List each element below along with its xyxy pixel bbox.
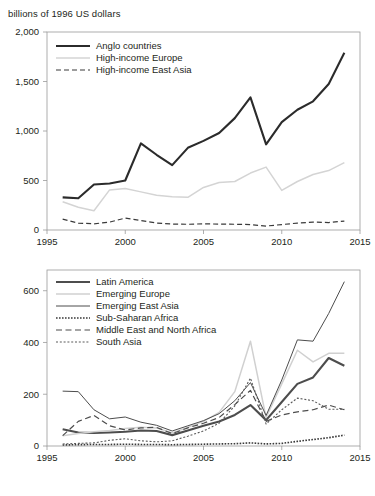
legend-label: Emerging Europe [96,288,170,299]
y-tick-label: 0 [34,440,39,451]
series-line [63,378,345,444]
legend-label: Emerging East Asia [96,300,180,311]
legend-label: High-income Europe [96,52,183,63]
y-tick-label: 500 [23,175,39,186]
x-tick-label: 1995 [36,236,57,247]
plot-frame [47,32,360,230]
y-tick-label: 200 [23,389,39,400]
series-line [63,390,345,435]
chart-panel-top: 05001,0001,5002,00019952000200520102015A… [0,24,375,250]
x-tick-label: 2000 [115,452,136,463]
legend-label: Middle East and North Africa [96,324,217,335]
y-tick-label: 1,500 [15,76,39,87]
plot-frame [47,270,360,446]
y-tick-label: 1,000 [15,125,39,136]
legend-label: Sub-Saharan Africa [96,312,179,323]
x-tick-label: 2015 [349,236,370,247]
series-line [63,341,345,435]
x-tick-label: 2000 [115,236,136,247]
chart-panel-bottom: 020040060019952000200520102015Latin Amer… [0,262,375,496]
series-line [63,435,345,445]
x-tick-label: 2015 [349,452,370,463]
x-tick-label: 2005 [193,236,214,247]
y-tick-label: 2,000 [15,26,39,37]
legend-label: High-income East Asia [96,64,192,75]
x-tick-label: 2010 [271,236,292,247]
x-tick-label: 2010 [271,452,292,463]
x-tick-label: 1995 [36,452,57,463]
legend-label: Latin America [96,276,154,287]
x-tick-label: 2005 [193,452,214,463]
y-tick-label: 600 [23,285,39,296]
y-tick-label: 400 [23,337,39,348]
legend-label: South Asia [96,336,142,347]
page-axis-title: billions of 1996 US dollars [8,8,121,19]
legend-label: Anglo countries [96,40,162,51]
series-line [63,163,345,211]
series-line [63,218,345,226]
y-tick-label: 0 [34,224,39,235]
chart-page: billions of 1996 US dollars 05001,0001,5… [0,0,375,496]
